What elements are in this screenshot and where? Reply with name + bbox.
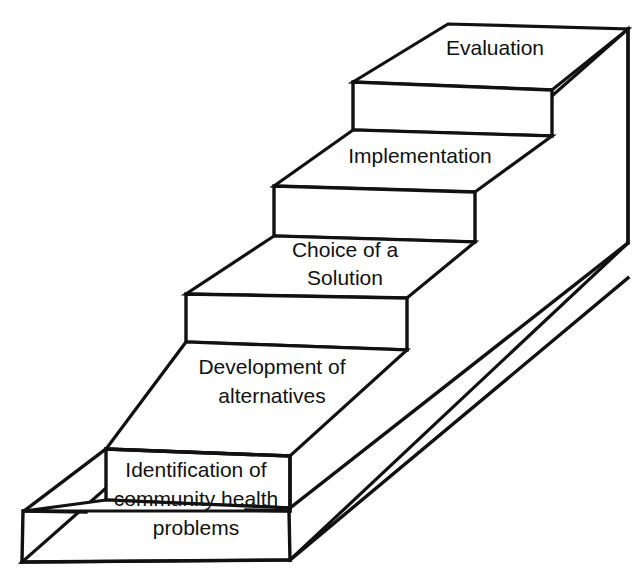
step-5-riser [353,82,552,136]
step-2-label-line-1: Development of [198,355,345,378]
step-2-label-line-2: alternatives [218,384,325,407]
step-1-label-line-1: Identification of [125,458,266,481]
step-5-label-line-1: Evaluation [446,36,544,59]
step-1-riser-top-edge-left-stub [24,511,86,512]
step-1-riser-top-edge-right-stub [246,510,290,511]
step-5-label: Evaluation [446,36,544,59]
staircase-diagram: Evaluation Implementation Choice of a So… [0,0,643,587]
step-4-riser [274,186,475,242]
step-1-riser-left-edge [22,511,23,562]
step-1-riser-right-edge [289,511,290,560]
step-1-riser-bottom-edge [22,560,290,562]
step-4-label: Implementation [348,144,492,167]
step-1-label-line-3: problems [153,516,239,539]
staircase-illustration: Evaluation Implementation Choice of a So… [0,0,643,587]
step-4-label-line-1: Implementation [348,144,492,167]
step-3-label-line-1: Choice of a [292,238,399,261]
step-3-label-line-2: Solution [307,266,383,289]
step-1-label-line-2: community health [114,487,279,510]
